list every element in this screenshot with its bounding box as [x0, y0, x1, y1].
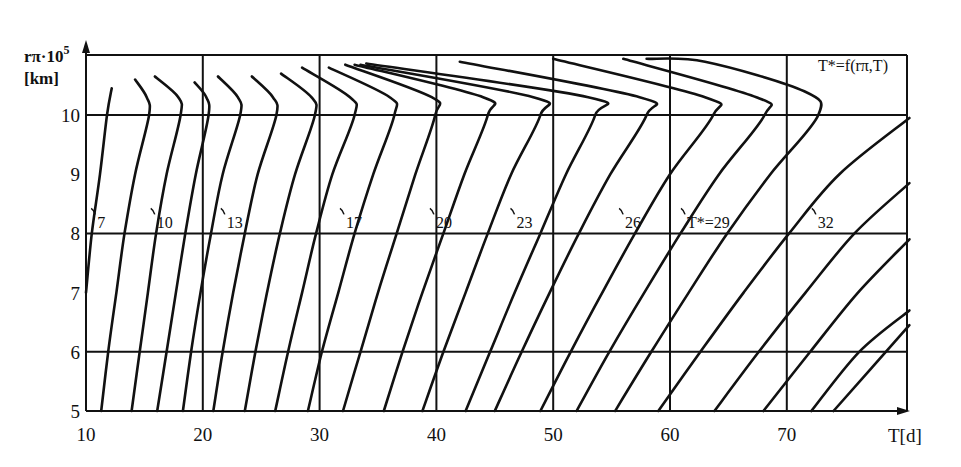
curve-label: 20 [436, 214, 452, 231]
label-tick-icon [340, 208, 344, 214]
label-tick-icon [812, 208, 816, 214]
curve-label: 7 [97, 214, 105, 231]
y-tick-label: 5 [71, 401, 81, 422]
curve-c4 [157, 82, 209, 411]
y-axis-arrow-icon [82, 40, 90, 53]
curve-c15 [540, 59, 721, 411]
x-tick-label: 70 [777, 424, 796, 445]
y-tick-label: 10 [61, 105, 80, 126]
x-axis-arrow-icon [897, 407, 910, 415]
y-tick-label: 7 [71, 283, 81, 304]
y-tick-label: 8 [71, 223, 81, 244]
curve-c16 [577, 59, 772, 411]
curve-label: 26 [625, 214, 641, 231]
curve-c10 [343, 65, 440, 411]
label-tick-icon [221, 208, 225, 214]
curve-c12 [361, 65, 550, 411]
y-axis-unit: [km] [24, 69, 59, 88]
label-tick-icon [681, 208, 685, 214]
y-tick-label: 9 [71, 164, 81, 185]
curve-label: 10 [157, 214, 173, 231]
grid [86, 45, 907, 411]
curve-label: 32 [818, 214, 834, 231]
curve-c11 [355, 65, 496, 411]
function-annotation: T*=f(rπ,T) [818, 57, 888, 75]
x-tick-label: 30 [310, 424, 329, 445]
label-tick-icon [510, 208, 514, 214]
curve-c1 [86, 88, 112, 292]
curve-label: 23 [516, 214, 532, 231]
curve-c7 [245, 74, 317, 411]
curve-c21 [811, 310, 909, 411]
curve-c6 [213, 77, 277, 412]
curve-c3 [132, 77, 182, 412]
x-tick-label: 20 [193, 424, 212, 445]
curve-c2 [101, 80, 150, 412]
y-tick-label: 6 [71, 342, 81, 363]
x-tick-label: 60 [661, 424, 680, 445]
label-tick-icon [151, 208, 155, 214]
curve-c17 [615, 58, 821, 411]
curve-c5 [183, 77, 242, 412]
x-tick-label: 10 [77, 424, 96, 445]
curve-c20 [763, 239, 909, 411]
curve-label: 17 [346, 214, 362, 231]
chart-canvas: 7101317202326T*=2932 1020304050607056789… [0, 0, 961, 467]
curve-c19 [714, 183, 909, 411]
x-axis-label: T[d] [888, 425, 922, 446]
x-tick-label: 40 [427, 424, 446, 445]
curve-label: 13 [227, 214, 243, 231]
curve-c8 [275, 68, 357, 411]
x-tick-label: 50 [544, 424, 563, 445]
y-axis-label: rπ·105 [24, 43, 70, 66]
curve-label: T*=29 [687, 214, 730, 231]
label-tick-icon [619, 208, 623, 214]
label-tick-icon [430, 208, 434, 214]
